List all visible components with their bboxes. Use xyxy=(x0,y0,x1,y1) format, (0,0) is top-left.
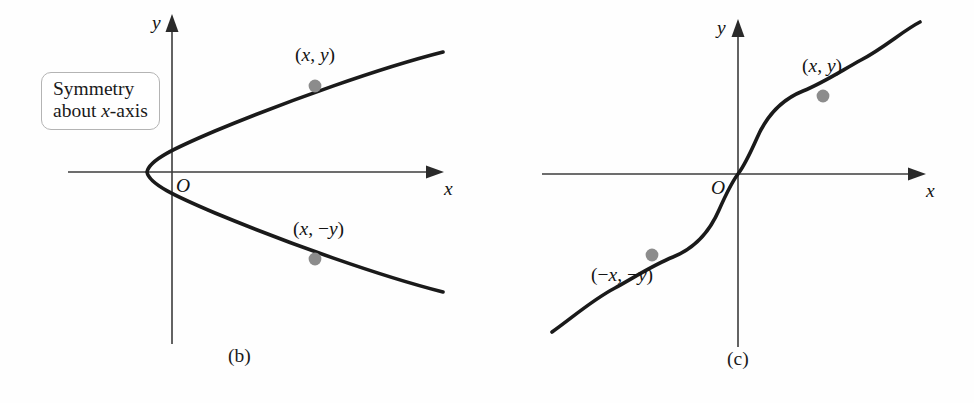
point-label-upper: (x, y) xyxy=(802,55,842,77)
callout-line-2-suffix: -axis xyxy=(110,100,148,121)
y-axis-label: y xyxy=(717,17,726,39)
callout-symmetry-about-x-axis: Symmetry about x-axis xyxy=(41,72,160,130)
var-x: x xyxy=(302,44,311,65)
callout-line-2-italic-var: x xyxy=(101,100,110,121)
y-axis-label: y xyxy=(152,12,161,34)
callout-line-1: Symmetry xyxy=(53,78,148,100)
var-y: y xyxy=(638,264,647,285)
point-label-lower: (x, −y) xyxy=(293,218,344,240)
point-label-upper: (x, y) xyxy=(295,44,335,66)
y-axis-arrowhead-icon xyxy=(166,14,179,32)
point-marker-upper xyxy=(817,90,830,103)
point-marker-lower xyxy=(309,253,322,266)
point-marker-lower xyxy=(646,249,659,262)
panel-caption-c: (c) xyxy=(727,348,749,370)
origin-label: O xyxy=(176,175,190,197)
panel-c-graph xyxy=(487,0,974,403)
var-y: y xyxy=(320,44,329,65)
var-x: x xyxy=(300,218,309,239)
x-axis-label: x xyxy=(926,180,935,202)
panel-caption-b: (b) xyxy=(228,345,251,367)
paren-close: ) xyxy=(338,218,345,239)
panel-b-graph xyxy=(0,0,487,403)
panel-c-symmetry-about-origin: Symmetry about origin (x, y) (−x, −y) x … xyxy=(487,0,974,403)
symmetry-figure: Symmetry about x-axis (x, y) (x, −y) x y… xyxy=(0,0,974,403)
var-y: y xyxy=(827,55,836,76)
separator: , xyxy=(310,44,320,65)
callout-line-2: about x-axis xyxy=(53,100,148,122)
panel-b-symmetry-about-x-axis: Symmetry about x-axis (x, y) (x, −y) x y… xyxy=(0,0,487,403)
y-axis-arrowhead-icon xyxy=(732,19,745,37)
var-x: x xyxy=(809,55,818,76)
x-axis-arrowhead-icon xyxy=(908,168,926,181)
callout-line-2-prefix: about xyxy=(53,100,101,121)
x-axis-label: x xyxy=(444,178,453,200)
separator-negative: , − xyxy=(308,218,329,239)
point-label-lower: (−x, −y) xyxy=(591,264,653,286)
paren-close: ) xyxy=(329,44,336,65)
x-axis-arrowhead-icon xyxy=(426,166,444,179)
var-y: y xyxy=(329,218,338,239)
var-x: x xyxy=(609,264,618,285)
origin-label: O xyxy=(711,177,725,199)
point-marker-upper xyxy=(309,80,322,93)
